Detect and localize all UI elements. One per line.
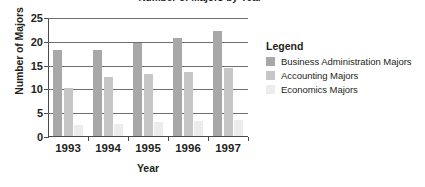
bar: [133, 43, 142, 136]
bar: [234, 120, 243, 136]
bar-group: [93, 17, 123, 136]
chart-title: Number of Majors by Year: [70, 0, 330, 4]
y-axis-line: [48, 18, 49, 138]
legend-swatch-icon: [266, 71, 275, 80]
bar-group: [133, 17, 163, 136]
legend-item: Economics Majors: [266, 84, 424, 95]
bar: [104, 77, 113, 137]
y-tick-mark: [44, 18, 48, 19]
plot-inner: 0510152025 19931994199519961997: [48, 18, 248, 137]
bar-chart-figure: Number of Majors by Year Number of Major…: [0, 0, 425, 187]
y-tick-mark: [44, 137, 48, 138]
y-axis-title: Number of Majors: [13, 0, 25, 114]
x-tick-mark: [88, 137, 89, 141]
bar: [144, 74, 153, 136]
x-tick-label: 1997: [215, 142, 241, 154]
legend-label: Economics Majors: [281, 84, 358, 95]
x-tick-label: 1996: [175, 142, 201, 154]
legend-swatch-icon: [266, 85, 275, 94]
y-tick-mark: [44, 42, 48, 43]
x-axis-title: Year: [48, 162, 248, 174]
y-tick-mark: [44, 66, 48, 67]
y-tick-mark: [44, 89, 48, 90]
y-tick-label: 15: [31, 60, 43, 72]
legend-item: Accounting Majors: [266, 70, 424, 81]
legend-label: Business Administration Majors: [281, 56, 412, 67]
bar: [53, 50, 62, 136]
bar: [213, 31, 222, 136]
bar: [224, 68, 233, 136]
bar-group: [213, 17, 243, 136]
plot-area: 0510152025 19931994199519961997: [48, 18, 248, 137]
bar: [154, 122, 163, 136]
legend-swatch-icon: [266, 57, 275, 66]
legend-title: Legend: [266, 40, 424, 52]
x-tick-mark: [168, 137, 169, 141]
x-tick-label: 1993: [55, 142, 81, 154]
bar: [173, 38, 182, 136]
y-tick-mark: [44, 113, 48, 114]
y-tick-label: 5: [37, 107, 43, 119]
bar: [64, 88, 73, 136]
y-tick-label: 25: [31, 12, 43, 24]
x-tick-label: 1995: [135, 142, 161, 154]
legend-label: Accounting Majors: [281, 70, 358, 81]
bar-group: [173, 17, 203, 136]
legend-item: Business Administration Majors: [266, 56, 424, 67]
y-tick-label: 0: [37, 131, 43, 143]
bar: [184, 72, 193, 136]
x-tick-label: 1994: [95, 142, 121, 154]
x-tick-mark: [248, 137, 249, 141]
bar: [194, 121, 203, 136]
legend-items: Business Administration MajorsAccounting…: [266, 56, 424, 95]
x-axis-line: [48, 136, 248, 137]
bar: [93, 50, 102, 136]
x-tick-mark: [128, 137, 129, 141]
x-tick-mark: [208, 137, 209, 141]
chart-legend: Legend Business Administration MajorsAcc…: [266, 40, 424, 98]
bar: [74, 125, 83, 136]
bar: [114, 124, 123, 136]
y-tick-label: 10: [31, 83, 43, 95]
y-tick-label: 20: [31, 36, 43, 48]
bar-group: [53, 17, 83, 136]
